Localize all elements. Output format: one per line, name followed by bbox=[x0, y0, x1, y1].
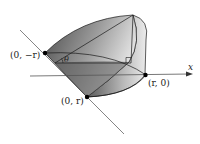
label-r-0: (r, 0) bbox=[148, 78, 170, 88]
point-0-r bbox=[85, 95, 89, 99]
x-axis-arrow-icon bbox=[186, 72, 193, 77]
point-0-neg-r bbox=[43, 51, 47, 55]
wedge-diagram: (0, −r) (0, r) (r, 0) x θ bbox=[0, 0, 200, 144]
label-0-neg-r: (0, −r) bbox=[10, 50, 40, 60]
label-0-r: (0, r) bbox=[61, 96, 84, 106]
label-x-axis: x bbox=[188, 62, 193, 72]
point-r-0 bbox=[143, 73, 147, 77]
label-theta: θ bbox=[64, 55, 69, 64]
